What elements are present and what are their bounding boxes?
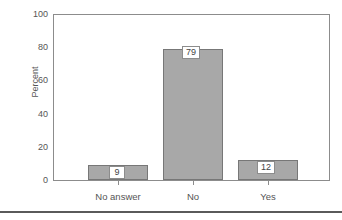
y-tick-label-60: 60 (38, 76, 48, 85)
bar-value-no-answer: 9 (109, 166, 125, 179)
bar-value-no: 79 (182, 46, 200, 59)
x-tick-mark-yes (268, 181, 269, 185)
x-tick-mark-no (193, 181, 194, 185)
x-tick-label-no-answer: No answer (78, 191, 158, 202)
bar-no[interactable] (163, 49, 223, 180)
x-tick-label-yes: Yes (228, 191, 308, 202)
y-tick-label-100: 100 (33, 10, 48, 19)
bottom-divider (0, 211, 342, 213)
bar-chart-figure: Percent 100 80 60 40 20 0 9 79 12 No ans… (0, 0, 342, 220)
y-tick-label-20: 20 (38, 143, 48, 152)
y-tick-label-0: 0 (43, 176, 48, 185)
y-tick-label-40: 40 (38, 110, 48, 119)
y-tick-label-80: 80 (38, 43, 48, 52)
x-tick-label-no: No (153, 191, 233, 202)
x-tick-mark-no-answer (118, 181, 119, 185)
bar-value-yes: 12 (257, 161, 275, 174)
